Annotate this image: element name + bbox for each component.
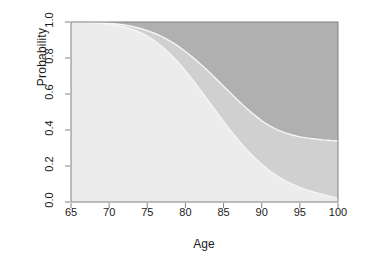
x-tick-label: 100: [318, 206, 358, 218]
chart-figure: Probability 0.00.20.40.60.81.0 657075808…: [0, 0, 367, 265]
x-tick-label: 85: [204, 206, 244, 218]
x-tick-label: 75: [127, 206, 167, 218]
x-tick-label: 80: [165, 206, 205, 218]
x-axis-tick-labels: 65707580859095100: [0, 206, 367, 226]
x-axis-title: Age: [70, 237, 338, 251]
x-tick-label: 95: [280, 206, 320, 218]
x-tick-label: 90: [242, 206, 282, 218]
x-tick-label: 65: [51, 206, 91, 218]
area-bands: [71, 22, 338, 202]
x-tick-label: 70: [89, 206, 129, 218]
